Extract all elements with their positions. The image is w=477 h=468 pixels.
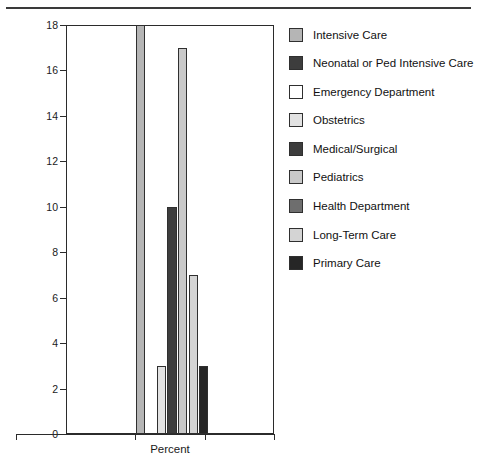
legend-item-label: Intensive Care [313, 29, 387, 41]
legend-item: Obstetrics [289, 113, 475, 128]
legend-swatch-icon [289, 228, 303, 242]
legend-item-label: Medical/Surgical [313, 143, 397, 155]
legend-item-label: Health Department [313, 200, 410, 212]
bars-container [66, 25, 274, 434]
x-axis-tick [205, 434, 206, 440]
legend-item: Pediatrics [289, 170, 475, 185]
legend-item-label: Pediatrics [313, 171, 364, 183]
y-axis-tick [60, 161, 66, 162]
bar-primary-care [199, 366, 208, 434]
x-axis-tick [274, 434, 275, 440]
y-axis-tick-label: 10 [6, 202, 58, 212]
legend-swatch-icon [289, 142, 303, 156]
legend-swatch-icon [289, 113, 303, 127]
y-axis-tick [60, 207, 66, 208]
bar-chart-figure: 024681012141618 Percent Intensive CareNe… [0, 0, 477, 468]
y-axis-tick [60, 389, 66, 390]
legend-swatch-icon [289, 256, 303, 270]
legend-item: Neonatal or Ped Intensive Care [289, 56, 475, 71]
legend-item-label: Primary Care [313, 257, 381, 269]
legend-item-label: Obstetrics [313, 114, 365, 126]
bar-medical-surgical [167, 207, 177, 434]
x-axis-tick [135, 434, 136, 440]
y-axis-tick [60, 252, 66, 253]
legend-item: Primary Care [289, 256, 475, 271]
y-axis-tick-label: 14 [6, 111, 58, 121]
bar-obstetrics [157, 366, 166, 434]
legend-swatch-icon [289, 199, 303, 213]
legend-item-label: Neonatal or Ped Intensive Care [313, 57, 473, 69]
y-axis-tick-label: 2 [6, 384, 58, 394]
chart-legend: Intensive CareNeonatal or Ped Intensive … [289, 27, 475, 284]
y-axis-tick-label: 4 [6, 338, 58, 348]
bar-intensive-care [136, 25, 145, 434]
x-axis-tick [16, 434, 17, 440]
legend-item-label: Emergency Department [313, 86, 434, 98]
legend-item: Health Department [289, 199, 475, 214]
y-axis-labels: 024681012141618 [0, 25, 58, 434]
y-axis-tick-label: 18 [6, 20, 58, 30]
x-axis-line [16, 434, 274, 435]
legend-item: Long-Term Care [289, 227, 475, 242]
y-axis-line [66, 25, 67, 434]
y-axis-tick-label: 6 [6, 293, 58, 303]
legend-item: Medical/Surgical [289, 141, 475, 156]
bar-pediatrics [178, 48, 187, 434]
y-axis-tick-label: 12 [6, 156, 58, 166]
legend-swatch-icon [289, 28, 303, 42]
legend-swatch-icon [289, 170, 303, 184]
legend-item-label: Long-Term Care [313, 229, 396, 241]
y-axis-tick [60, 343, 66, 344]
y-axis-tick-label: 16 [6, 65, 58, 75]
y-axis-tick [60, 298, 66, 299]
legend-item: Intensive Care [289, 27, 475, 42]
legend-swatch-icon [289, 56, 303, 70]
y-axis-tick [60, 70, 66, 71]
bar-long-term-care [189, 275, 198, 434]
y-axis-tick [60, 25, 66, 26]
y-axis-tick [60, 116, 66, 117]
x-axis-title: Percent [66, 443, 274, 455]
legend-swatch-icon [289, 85, 303, 99]
y-axis-tick-label: 8 [6, 247, 58, 257]
legend-item: Emergency Department [289, 84, 475, 99]
